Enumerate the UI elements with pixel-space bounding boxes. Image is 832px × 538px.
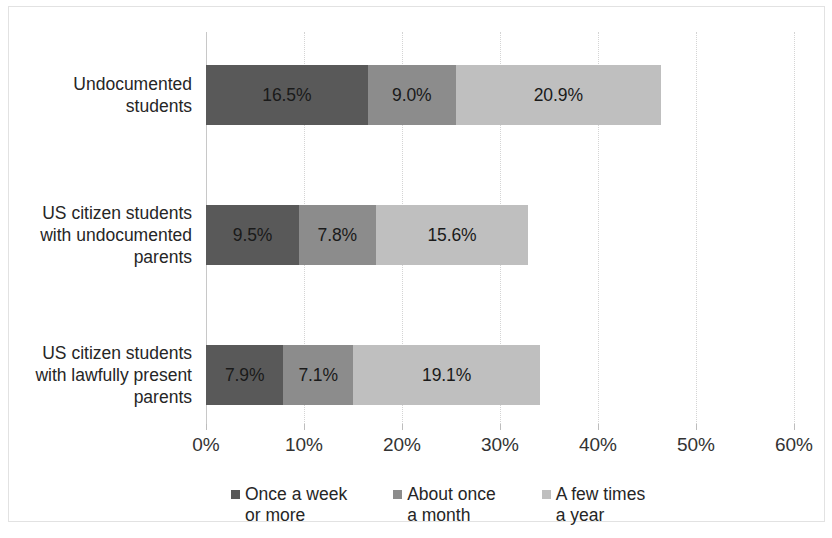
y-axis-category-label: US citizen studentswith lawfully present… [0, 342, 206, 408]
bar-segment[interactable]: 20.9% [456, 65, 661, 125]
legend-label: A few times a year [556, 484, 645, 526]
legend-swatch-icon [231, 490, 240, 499]
bar-segment[interactable]: 16.5% [206, 65, 368, 125]
tickmark-30 [500, 424, 501, 430]
bar-segment[interactable]: 15.6% [376, 205, 529, 265]
legend-item[interactable]: A few times a year [542, 484, 645, 526]
x-axis-tick-label: 0% [161, 434, 251, 456]
bar-segment[interactable]: 9.5% [206, 205, 299, 265]
bar-segment[interactable]: 7.8% [299, 205, 375, 265]
tickmark-0 [206, 424, 207, 430]
x-axis-tick-label: 60% [749, 434, 832, 456]
legend-item[interactable]: Once a week or more [231, 484, 347, 526]
bar-value-label: 7.9% [225, 365, 265, 386]
legend-swatch-icon [393, 490, 402, 499]
bar-value-label: 7.8% [318, 225, 358, 246]
legend-label: About once a month [407, 484, 496, 526]
x-axis-tick-label: 40% [553, 434, 643, 456]
bar-segment[interactable]: 9.0% [368, 65, 456, 125]
bar-value-label: 9.0% [392, 85, 432, 106]
bar-group: US citizen studentswith undocumentedpare… [206, 205, 794, 265]
legend-swatch-icon [542, 490, 551, 499]
bar-value-label: 15.6% [427, 225, 476, 246]
bar-group: US citizen studentswith lawfully present… [206, 345, 794, 405]
chart-legend: Once a week or moreAbout once a monthA f… [231, 484, 831, 526]
bar-value-label: 16.5% [262, 85, 311, 106]
bar-value-label: 19.1% [422, 365, 471, 386]
tickmark-50 [696, 424, 697, 430]
bar-value-label: 7.1% [298, 365, 338, 386]
caption-strip [0, 528, 832, 538]
y-axis-category-label: US citizen studentswith undocumentedpare… [0, 202, 206, 268]
bar-segment[interactable]: 19.1% [353, 345, 540, 405]
tickmark-20 [402, 424, 403, 430]
chart-frame: 0%10%20%30%40%50%60%Undocumentedstudents… [8, 6, 825, 522]
x-axis-tick-label: 20% [357, 434, 447, 456]
bar-value-label: 20.9% [534, 85, 583, 106]
y-axis-category-label: Undocumentedstudents [0, 73, 206, 117]
tickmark-40 [598, 424, 599, 430]
bar-value-label: 9.5% [233, 225, 273, 246]
tickmark-60 [794, 424, 795, 430]
plot-area: 0%10%20%30%40%50%60%Undocumentedstudents… [206, 32, 794, 424]
tickmark-10 [304, 424, 305, 430]
bar-segment[interactable]: 7.9% [206, 345, 283, 405]
bar-segment[interactable]: 7.1% [283, 345, 353, 405]
legend-label: Once a week or more [245, 484, 347, 526]
bar-group: Undocumentedstudents16.5%9.0%20.9% [206, 65, 794, 125]
legend-item[interactable]: About once a month [393, 484, 496, 526]
x-axis-tick-label: 30% [455, 434, 545, 456]
x-axis-tick-label: 10% [259, 434, 349, 456]
x-axis-tick-label: 50% [651, 434, 741, 456]
gridline-60 [794, 32, 795, 424]
